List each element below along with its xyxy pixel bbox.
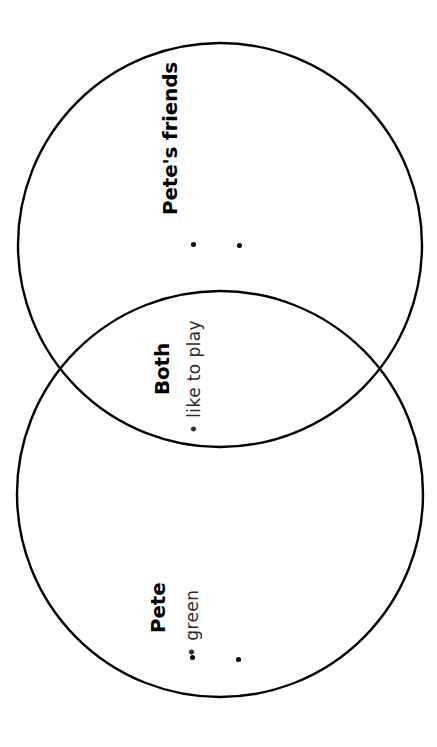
venn-circle-petes-friends xyxy=(18,43,422,447)
empty-bullet-dot xyxy=(237,243,242,248)
bottom-entry-green: • green xyxy=(184,590,201,657)
section-heading-both: Both xyxy=(152,343,172,395)
worksheet-page: Pete's friends Both • like to play Pete … xyxy=(0,0,437,747)
empty-bullet-dot xyxy=(190,655,195,660)
section-heading-petes-friends: Pete's friends xyxy=(160,62,180,215)
venn-circle-pete xyxy=(17,291,423,697)
section-heading-pete: Pete xyxy=(148,582,168,633)
empty-bullet-dot xyxy=(236,657,241,662)
bullet-glyph: • xyxy=(184,424,204,434)
venn-diagram-svg xyxy=(0,0,437,747)
overlap-entry-like-to-play: • like to play xyxy=(186,320,203,434)
empty-bullet-dot xyxy=(191,242,196,247)
entry-text: like to play xyxy=(184,320,204,418)
entry-text: green xyxy=(182,590,202,641)
